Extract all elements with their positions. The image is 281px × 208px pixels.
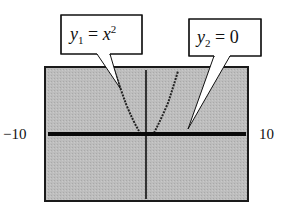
y2-equals: = (215, 27, 225, 47)
calculator-graph-figure: y1 = x2 y2 = 0 −10 10 (0, 0, 281, 208)
callout-label-y1: y1 = x2 (70, 24, 116, 46)
y1-equals: = (88, 24, 98, 44)
x-max-label: 10 (259, 127, 274, 142)
y2-rhs: 0 (230, 27, 239, 47)
callout-label-y2: y2 = 0 (197, 28, 239, 49)
y2-var: y (197, 27, 205, 47)
graph-svg (0, 0, 281, 208)
x-min-label: −10 (3, 127, 26, 142)
y2-subscript: 2 (205, 37, 211, 49)
y1-subscript: 1 (78, 34, 84, 46)
y1-exponent: 2 (111, 23, 117, 35)
y1-rhs-var: x (103, 24, 111, 44)
y1-var: y (70, 24, 78, 44)
